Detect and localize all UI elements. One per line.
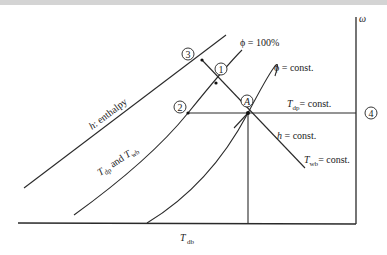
svg-text:1: 1: [219, 64, 224, 75]
tdp-const-label: Tdp= const.: [287, 98, 331, 112]
x-axis: [18, 223, 356, 224]
svg-text:T: T: [180, 232, 187, 243]
phi-const-label: ϕ = const.: [274, 62, 314, 73]
tdp-twb-label: Tdp and Twb: [95, 143, 141, 180]
svg-text:h = const.: h = const.: [277, 130, 316, 141]
phi-const-curve: [147, 65, 277, 223]
tdb-axis-label: T db: [180, 232, 195, 246]
point-a-marker: [246, 111, 250, 115]
svg-text:Tdp= const.: Tdp= const.: [287, 98, 331, 112]
point-3-marker: [200, 58, 203, 61]
point-3-label: 3: [182, 48, 194, 60]
phi-100-label: ϕ = 100%: [240, 37, 279, 48]
point-a-label: A: [241, 95, 253, 107]
svg-text:2: 2: [178, 102, 183, 113]
psychrometric-diagram: A 1 2 3 4 ω T db ϕ = 100% ϕ = const. h: …: [0, 0, 387, 255]
point-1-label: 1: [215, 63, 227, 75]
point-4-label: 4: [365, 107, 377, 119]
svg-text:Tdp and Twb: Tdp and Twb: [95, 143, 141, 180]
twb-const-label: Twb= const.: [304, 154, 350, 168]
svg-text:4: 4: [369, 108, 374, 119]
point-2-label: 2: [174, 101, 186, 113]
enthalpy-line: [24, 35, 226, 188]
wet-bulb-const-line: [202, 60, 305, 168]
svg-text:Twb= const.: Twb= const.: [304, 154, 350, 168]
h-const-label: h = const.: [277, 130, 316, 141]
point-1-marker: [214, 81, 217, 84]
omega-axis-label: ω: [359, 13, 366, 24]
point-2-marker: [186, 111, 189, 114]
svg-text:3: 3: [186, 49, 191, 60]
svg-text:A: A: [243, 96, 251, 107]
svg-text:db: db: [187, 238, 195, 246]
